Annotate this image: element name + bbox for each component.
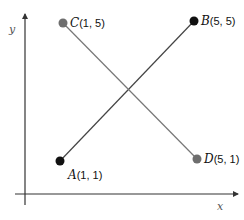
point-d-name: D: [203, 152, 214, 166]
point-b-coords: (5, 5): [210, 15, 236, 27]
point-b-name: B: [200, 14, 210, 28]
point-c: C(1, 5): [59, 16, 105, 30]
point-c-name: C: [70, 16, 79, 30]
segment-c-d: [63, 23, 197, 159]
point-d: D(5, 1): [193, 152, 240, 166]
point-c-label: C(1, 5): [70, 16, 105, 30]
point-b: B(5, 5): [190, 14, 236, 28]
axes: y x: [8, 14, 238, 213]
point-b-label: B(5, 5): [200, 14, 236, 28]
point-a-label: A(1, 1): [67, 168, 102, 182]
point-d-coords: (5, 1): [214, 153, 240, 165]
point-d-label: D(5, 1): [203, 152, 239, 166]
segment-a-b: [60, 21, 194, 161]
x-axis-label: x: [217, 200, 224, 213]
point-c-coords: (1, 5): [79, 17, 105, 29]
point-a-coords: (1, 1): [77, 169, 103, 181]
coordinate-diagram: y x C(1, 5) B(5, 5) A(1, 1) D(5, 1): [0, 0, 244, 220]
point-b-dot: [190, 17, 199, 26]
point-a-name: A: [67, 168, 77, 182]
point-a: A(1, 1): [56, 157, 103, 183]
y-axis-label: y: [8, 23, 16, 36]
point-c-dot: [59, 19, 68, 28]
segments: [60, 21, 197, 161]
point-a-dot: [56, 157, 65, 166]
point-d-dot: [193, 155, 202, 164]
